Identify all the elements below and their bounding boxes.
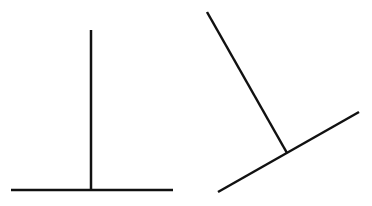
upright-t-figure: [11, 30, 173, 190]
rotated-t-stem-line: [207, 12, 287, 153]
diagram-canvas: [0, 0, 372, 206]
rotated-t-base-line: [218, 112, 359, 192]
rotated-t-figure: [207, 12, 359, 192]
